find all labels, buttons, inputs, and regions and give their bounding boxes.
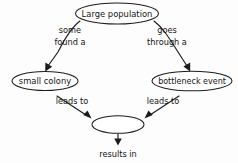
edge-results-in bbox=[114, 134, 122, 146]
arrow-head-leads-to-right bbox=[145, 110, 153, 118]
node-small-colony[interactable]: small colony bbox=[12, 72, 78, 91]
concept-map-diagram: Large population small colony bottleneck… bbox=[0, 0, 238, 163]
node-blank-outcome[interactable] bbox=[92, 116, 144, 134]
node-bottleneck-event[interactable]: bottleneck event bbox=[152, 71, 232, 91]
node-large-population-label: Large population bbox=[82, 9, 153, 19]
edge-label-found-a: found a bbox=[54, 37, 85, 47]
node-bottleneck-event-label: bottleneck event bbox=[158, 77, 226, 86]
edge-label-results-in: results in bbox=[99, 149, 137, 159]
edge-label-some: some bbox=[59, 25, 81, 35]
arrow-head-some-found-a bbox=[45, 62, 52, 71]
arrow-head-leads-to-left bbox=[83, 110, 91, 118]
node-small-colony-label: small colony bbox=[19, 76, 71, 86]
node-blank-outcome-ellipse[interactable] bbox=[92, 116, 144, 134]
node-large-population[interactable]: Large population bbox=[76, 3, 159, 24]
edge-label-leads-to-left: leads to bbox=[56, 96, 89, 106]
edge-label-leads-to-right: leads to bbox=[147, 96, 180, 106]
edge-label-through-a: through a bbox=[147, 37, 187, 47]
diagram-canvas: Large population small colony bottleneck… bbox=[0, 0, 238, 163]
edge-label-goes: goes bbox=[157, 25, 177, 35]
arrow-head-results-in bbox=[114, 139, 122, 146]
arrow-head-goes-through-a bbox=[183, 62, 190, 71]
